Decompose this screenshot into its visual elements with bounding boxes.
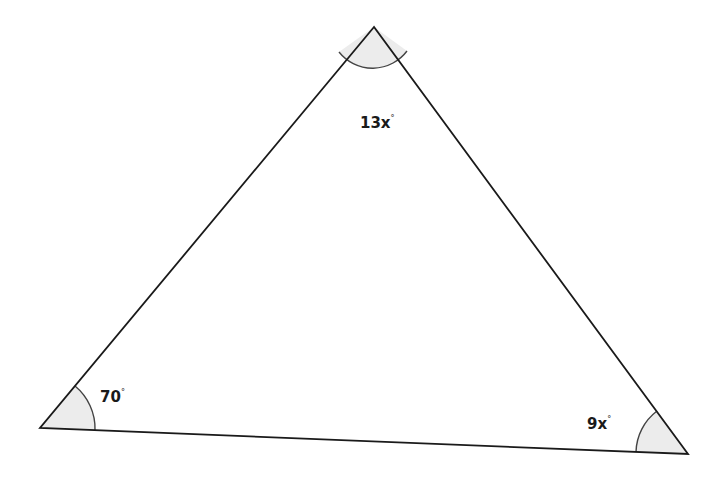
right-angle-label: 9x°: [587, 415, 611, 433]
triangle-outline: [40, 27, 688, 454]
left-angle-label: 70°: [100, 388, 125, 406]
triangle-diagram: 13x° 70° 9x°: [0, 0, 727, 477]
top-angle-label: 13x°: [360, 114, 395, 132]
left-angle-sector: [40, 386, 95, 430]
